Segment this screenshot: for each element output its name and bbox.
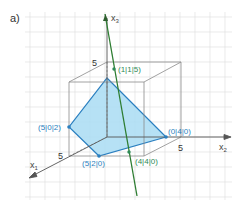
point-520-marker (97, 154, 101, 158)
point-040-label: (0|4|0) (168, 127, 191, 136)
x3-arrow-icon (103, 14, 108, 21)
point-440-marker (127, 150, 130, 153)
x1-axis (32, 137, 107, 176)
x2-arrow-icon (224, 135, 231, 140)
x2-tick-five: 5 (178, 143, 183, 153)
point-520-label: (5|2|0) (82, 159, 105, 168)
diagram-canvas: a) x3 x2 x1 5 5 5 (1|1|5) (5|0|2) (0|4|0… (0, 0, 243, 203)
point-115-marker (112, 67, 115, 70)
point-115-label: (1|1|5) (118, 65, 141, 74)
x1-axis-label: x1 (30, 160, 39, 171)
part-label: a) (10, 12, 20, 24)
point-440-label: (4|4|0) (135, 157, 158, 166)
x1-tick-five: 5 (58, 151, 63, 161)
x3-tick-five: 5 (92, 58, 97, 68)
point-502-marker (67, 125, 71, 129)
point-502-label: (5|0|2) (38, 123, 61, 132)
x2-axis-label: x2 (219, 142, 228, 153)
x3-axis-label: x3 (111, 13, 120, 24)
plane-section-polygon (69, 78, 166, 156)
